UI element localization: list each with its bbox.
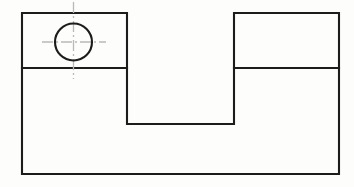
drawing-svg xyxy=(0,0,354,187)
plate-outline xyxy=(22,13,339,174)
technical-drawing-canvas xyxy=(0,0,354,187)
